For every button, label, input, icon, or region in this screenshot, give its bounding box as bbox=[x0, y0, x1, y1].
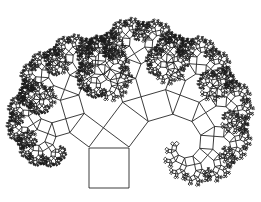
pythagoras-tree-diagram bbox=[0, 0, 261, 202]
